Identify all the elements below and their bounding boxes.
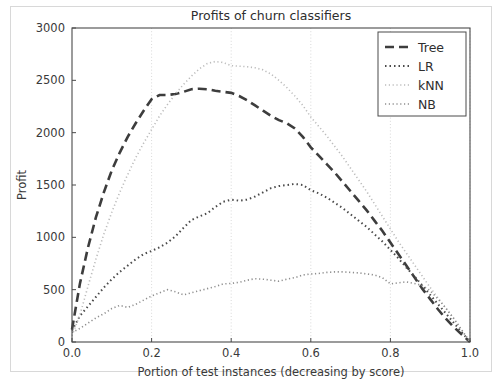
chart-title: Profits of churn classifiers	[191, 8, 351, 23]
x-tick-label: 0.0	[63, 346, 81, 360]
y-tick-label: 3000	[36, 21, 65, 35]
profit-line-chart: Profits of churn classifiers Portion of …	[0, 0, 502, 387]
y-tick-label: 500	[43, 283, 65, 297]
y-tick-label: 1000	[36, 230, 65, 244]
chart-legend[interactable]: TreeLRkNNNB	[378, 32, 466, 116]
y-tick-label: 0	[58, 335, 65, 349]
series-line-tree	[72, 89, 470, 342]
legend-label-tree: Tree	[417, 40, 444, 55]
legend-label-lr: LR	[418, 59, 434, 74]
figure-canvas: Profits of churn classifiers Portion of …	[0, 0, 502, 387]
y-axis-title: Profit	[15, 170, 29, 200]
x-tick-label: 0.6	[302, 346, 320, 360]
x-axis-title: Portion of test instances (decreasing by…	[137, 365, 404, 379]
series-line-nb	[72, 272, 470, 342]
x-tick-label: 1.0	[461, 346, 479, 360]
legend-label-nb: NB	[418, 97, 436, 112]
legend-label-knn: kNN	[418, 78, 444, 93]
series-line-lr	[72, 184, 470, 342]
y-tick-label: 2000	[36, 126, 65, 140]
y-tick-label: 2500	[36, 73, 65, 87]
x-tick-label: 0.2	[142, 346, 160, 360]
y-axis-tick-labels: 050010001500200025003000	[36, 21, 65, 349]
x-tick-label: 0.8	[381, 346, 399, 360]
x-axis-tick-labels: 0.00.20.40.60.81.0	[63, 346, 479, 360]
x-tick-label: 0.4	[222, 346, 240, 360]
y-tick-label: 1500	[36, 178, 65, 192]
